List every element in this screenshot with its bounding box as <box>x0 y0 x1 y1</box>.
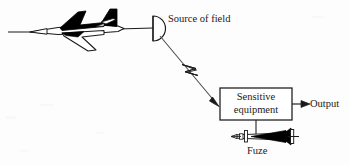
aircraft-icon <box>8 9 153 51</box>
field-radiation-arrow <box>160 36 219 107</box>
label-fuze: Fuze <box>247 145 267 156</box>
sensitive-equipment-label-line1: Sensitive <box>237 91 276 104</box>
antenna-dish-dome <box>153 16 166 41</box>
label-source-of-field: Source of field <box>168 13 230 24</box>
sensitive-equipment-label: Sensitive equipment <box>220 88 292 120</box>
schematic-vector-layer <box>0 0 349 165</box>
label-output: Output <box>310 98 339 109</box>
output-arrow <box>292 101 310 108</box>
fuze-forward-fin <box>245 131 248 143</box>
antenna-dish-icon <box>153 16 166 41</box>
field-arrow-shaft <box>160 36 216 103</box>
lightning-zigzag-outline <box>182 65 198 76</box>
diagram-canvas: Source of field Sensitive equipment Outp… <box>0 0 349 165</box>
aircraft-nose-cone <box>30 29 47 35</box>
fuze-missile-icon <box>231 128 299 145</box>
sensitive-equipment-label-line2: equipment <box>234 104 278 117</box>
output-arrow-head <box>301 101 310 108</box>
field-arrow-head <box>210 97 220 107</box>
